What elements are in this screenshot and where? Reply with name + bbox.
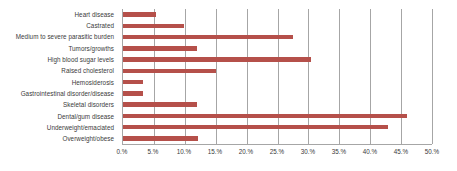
category-label: Castrated [86, 22, 114, 30]
x-tick-label: 15.% [208, 148, 222, 155]
x-tick-label: 35.% [332, 148, 346, 155]
bar-row [123, 88, 432, 99]
category-axis-labels: Heart diseaseCastratedMedium to severe p… [0, 9, 118, 145]
category-label: Gastrointestinal disorder/disease [21, 90, 114, 98]
x-tick-label: 5.% [148, 148, 159, 155]
bar [123, 24, 184, 29]
x-tick-label: 0.% [117, 148, 128, 155]
bar-row [123, 20, 432, 31]
bar [123, 46, 197, 51]
bar-chart: Heart diseaseCastratedMedium to severe p… [0, 0, 457, 171]
x-tick-label: 40.% [363, 148, 377, 155]
category-label: Raised cholesterol [61, 67, 114, 75]
bar [123, 114, 407, 119]
bar-series [123, 9, 432, 144]
category-label: Hemosiderosis [72, 79, 114, 87]
bar [123, 35, 293, 40]
bar-row [123, 43, 432, 54]
bar-row [123, 65, 432, 76]
bar [123, 102, 197, 107]
bar-row [123, 9, 432, 20]
value-axis-labels: 0.%5.%10.%15.%20.%25.%30.%35.%40.%45.%50… [122, 148, 432, 162]
bar [123, 136, 198, 141]
plot-area [122, 9, 432, 145]
category-label: Overweight/obese [62, 135, 114, 143]
x-tick-label: 25.% [270, 148, 284, 155]
bar [123, 91, 143, 96]
bar [123, 80, 143, 85]
bar-row [123, 110, 432, 121]
bar-row [123, 133, 432, 144]
category-label: Underweight/emaciated [47, 124, 114, 132]
x-tick-label: 45.% [394, 148, 408, 155]
bar-row [123, 77, 432, 88]
bar-row [123, 32, 432, 43]
category-label: Tumors/growths [68, 45, 114, 53]
bar [123, 69, 216, 74]
x-tick-label: 30.% [301, 148, 315, 155]
category-label: Skeletal disorders [63, 101, 114, 109]
category-label: Heart disease [74, 11, 114, 19]
category-label: High blood sugar levels [47, 56, 114, 64]
category-label: Dental/gum disease [57, 113, 114, 121]
bar [123, 57, 311, 62]
bar [123, 12, 156, 17]
bar-row [123, 122, 432, 133]
x-tick-label: 20.% [239, 148, 253, 155]
category-label: Medium to severe parasitic burden [16, 33, 114, 41]
bar [123, 125, 388, 130]
x-tick-label: 50.% [425, 148, 439, 155]
bar-row [123, 54, 432, 65]
x-tick-label: 10.% [177, 148, 191, 155]
gridline [432, 9, 433, 144]
bar-row [123, 99, 432, 110]
